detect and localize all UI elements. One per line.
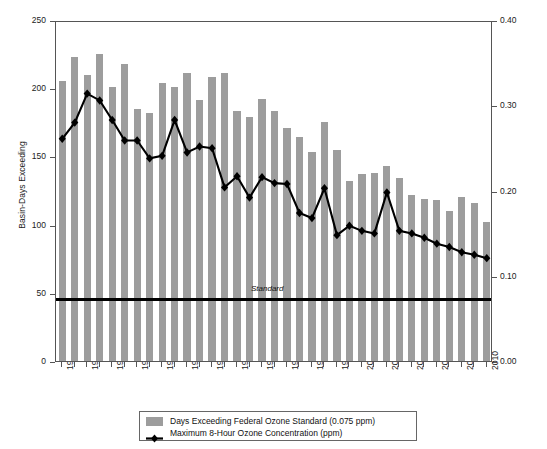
line-marker (408, 229, 415, 237)
y-tick-label-right: 0.10 (500, 271, 517, 281)
line-marker (458, 248, 465, 256)
x-tick (398, 362, 399, 367)
line-marker (446, 243, 453, 251)
x-tick (461, 362, 462, 367)
line-marker (271, 179, 278, 187)
y-tick-right (492, 277, 497, 278)
x-tick (473, 362, 474, 367)
line-marker (371, 229, 378, 237)
y-tick-left (50, 362, 55, 363)
x-tick (423, 362, 424, 367)
line-marker (184, 148, 191, 156)
legend-label-bars: Days Exceeding Federal Ozone Standard (0… (170, 416, 375, 427)
line-marker (171, 116, 178, 124)
x-tick (261, 362, 262, 367)
x-tick (274, 362, 275, 367)
x-tick (249, 362, 250, 367)
x-tick (448, 362, 449, 367)
line-marker (433, 239, 440, 247)
ozone-trend-chart: Basin-Days Exceeding Maximum Concentrati… (0, 0, 547, 449)
x-tick (224, 362, 225, 367)
line-marker (209, 144, 216, 152)
line-marker (321, 184, 328, 192)
y-tick-right (492, 192, 497, 193)
line-series (56, 22, 492, 362)
x-tick (236, 362, 237, 367)
x-tick (298, 362, 299, 367)
line-marker (84, 89, 91, 97)
x-tick (61, 362, 62, 367)
line-marker (471, 251, 478, 259)
standard-label: Standard (251, 284, 283, 293)
x-tick (373, 362, 374, 367)
line-marker (308, 214, 315, 222)
x-tick (99, 362, 100, 367)
line-marker (421, 233, 428, 241)
y-tick-label-left: 150 (4, 151, 46, 161)
x-tick (136, 362, 137, 367)
x-tick (149, 362, 150, 367)
x-tick (361, 362, 362, 367)
x-tick (211, 362, 212, 367)
line-marker (296, 209, 303, 217)
bar-swatch-icon (146, 417, 163, 426)
y-tick-label-right: 0.40 (500, 15, 517, 25)
y-tick-label-left: 0 (4, 356, 46, 366)
line-marker (358, 227, 365, 235)
legend-item-bars: Days Exceeding Federal Ozone Standard (0… (146, 415, 410, 427)
x-tick (323, 362, 324, 367)
y-tick-label-right: 0.20 (500, 186, 517, 196)
x-tick (311, 362, 312, 367)
y-tick-label-left: 250 (4, 15, 46, 25)
x-tick (124, 362, 125, 367)
x-tick (348, 362, 349, 367)
y-tick-right (492, 106, 497, 107)
x-tick (86, 362, 87, 367)
x-tick (336, 362, 337, 367)
x-tick (111, 362, 112, 367)
y-tick-label-left: 100 (4, 220, 46, 230)
x-tick (436, 362, 437, 367)
line-marker (483, 254, 490, 262)
line-marker (196, 142, 203, 150)
y-axis-left-title: Basin-Days Exceeding (17, 105, 27, 265)
x-tick (161, 362, 162, 367)
y-tick-label-left: 200 (4, 83, 46, 93)
plot-area: Standard (55, 21, 492, 362)
y-tick-right (492, 21, 497, 22)
line-markers (59, 89, 491, 262)
y-tick-label-right: 0.30 (500, 100, 517, 110)
standard-threshold-line (56, 298, 492, 301)
y-tick-label-right: 0.00 (500, 356, 517, 366)
x-tick (486, 362, 487, 367)
line-marker (283, 180, 290, 188)
line-marker (396, 227, 403, 235)
x-tick (186, 362, 187, 367)
y-tick-label-left: 50 (4, 288, 46, 298)
x-tick (386, 362, 387, 367)
x-tick (199, 362, 200, 367)
legend-label-line: Maximum 8-Hour Ozone Concentration (ppm) (170, 428, 342, 439)
line-path (62, 94, 487, 259)
x-tick (286, 362, 287, 367)
line-marker-swatch-icon (146, 429, 163, 438)
line-marker (159, 152, 166, 160)
chart-legend: Days Exceeding Federal Ozone Standard (0… (139, 411, 417, 441)
x-tick (174, 362, 175, 367)
x-tick (411, 362, 412, 367)
line-marker (383, 188, 390, 196)
x-tick (74, 362, 75, 367)
legend-item-line: Maximum 8-Hour Ozone Concentration (ppm) (146, 427, 410, 439)
